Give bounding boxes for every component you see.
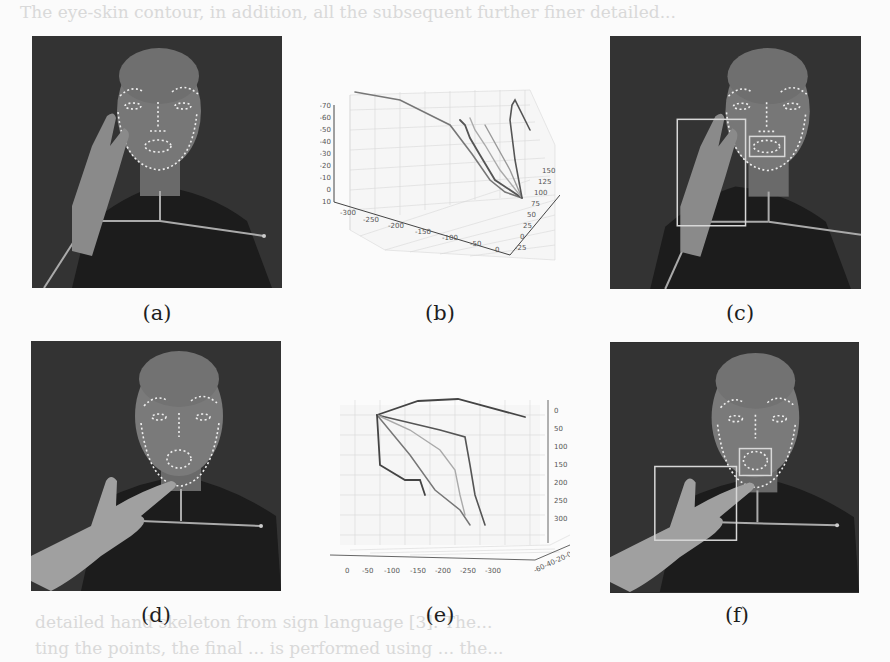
svg-text:125: 125: [538, 178, 551, 186]
svg-text:25: 25: [523, 222, 532, 230]
panel-f-photo: [610, 342, 859, 593]
svg-text:-300: -300: [340, 209, 356, 217]
svg-text:-250: -250: [363, 216, 379, 224]
svg-text:-60-40-20-0: -60-40-20-0: [532, 550, 570, 575]
caption-f: (f): [707, 603, 767, 627]
panel-d-photo: [31, 341, 281, 591]
svg-text:-100: -100: [442, 234, 458, 242]
svg-text:-10: -10: [320, 174, 331, 182]
svg-text:-150: -150: [415, 228, 431, 236]
svg-text:-150: -150: [410, 567, 426, 575]
svg-text:-50: -50: [320, 126, 331, 134]
svg-text:-50: -50: [470, 240, 481, 248]
svg-text:-60: -60: [320, 114, 331, 122]
svg-text:-250: -250: [460, 567, 476, 575]
panel-e-3d-plot: 050100 150200250 300 0-50-100 -150-200-2…: [330, 395, 570, 585]
svg-text:-200: -200: [388, 222, 404, 230]
svg-text:-20: -20: [320, 162, 331, 170]
panel-b-3d-plot: -70-60-50 -40-30-20 -10010 -300-250-200 …: [320, 50, 560, 280]
svg-text:100: 100: [534, 189, 547, 197]
hand-skeleton-3d-chart: 050100 150200250 300 0-50-100 -150-200-2…: [330, 395, 570, 585]
signer-avatar-image-with-boxes: [610, 36, 861, 289]
panel-a-photo: [32, 36, 282, 288]
svg-text:-25: -25: [515, 244, 526, 252]
svg-text:-50: -50: [362, 567, 373, 575]
svg-text:0: 0: [345, 567, 349, 575]
svg-text:-70: -70: [320, 102, 331, 110]
svg-text:250: 250: [554, 497, 567, 505]
signer-avatar-image-with-boxes: [610, 342, 859, 593]
svg-text:-200: -200: [435, 567, 451, 575]
svg-text:0: 0: [495, 246, 499, 254]
svg-text:0: 0: [554, 407, 558, 415]
svg-text:300: 300: [554, 515, 567, 523]
caption-b: (b): [410, 301, 470, 325]
hand-skeleton-3d-chart: -70-60-50 -40-30-20 -10010 -300-250-200 …: [320, 50, 560, 280]
caption-c: (c): [710, 301, 770, 325]
svg-text:-300: -300: [485, 567, 501, 575]
svg-text:10: 10: [322, 198, 331, 206]
svg-text:200: 200: [554, 479, 567, 487]
caption-a: (a): [127, 301, 187, 325]
signer-avatar-image: [32, 36, 282, 288]
show-through-text-bottom-2: ting the points, the final ... is perfor…: [35, 638, 504, 658]
svg-text:50: 50: [527, 211, 536, 219]
svg-text:75: 75: [531, 200, 540, 208]
caption-e: (e): [410, 603, 470, 627]
signer-avatar-image: [31, 341, 281, 591]
svg-text:-30: -30: [320, 150, 331, 158]
panel-c-photo: [610, 36, 861, 289]
caption-d: (d): [126, 603, 186, 627]
svg-text:0: 0: [327, 186, 331, 194]
svg-text:150: 150: [542, 167, 555, 175]
svg-text:-100: -100: [384, 567, 400, 575]
show-through-text-top: The eye-skin contour, in addition, all t…: [20, 2, 676, 22]
svg-text:-40: -40: [320, 138, 331, 146]
svg-text:100: 100: [554, 443, 567, 451]
svg-text:0: 0: [520, 233, 524, 241]
svg-text:50: 50: [554, 425, 563, 433]
svg-text:150: 150: [554, 461, 567, 469]
